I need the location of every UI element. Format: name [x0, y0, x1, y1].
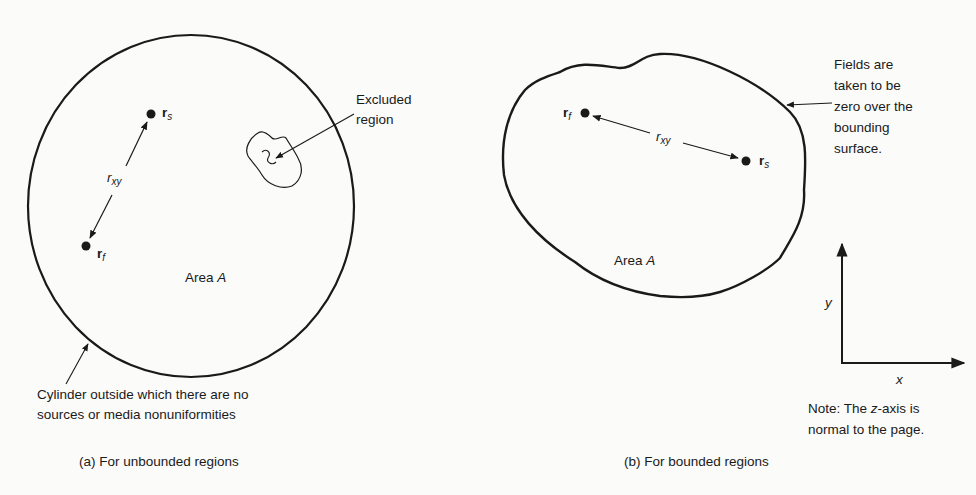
excluded-region-inner [262, 150, 276, 163]
label-cylinder: Cylinder outside which there are no sour… [37, 385, 249, 425]
label-axis-y: y [825, 293, 832, 313]
distance-arrow-right [683, 143, 738, 158]
label-excluded-region: Excluded region [356, 90, 412, 130]
excluded-pointer [276, 114, 354, 158]
label-r-xy: rxy [107, 168, 122, 192]
label-axis-x: x [896, 370, 903, 390]
field-point-b [581, 109, 590, 118]
source-point [147, 110, 156, 119]
label-fields-zero: Fields are taken to be zero over the bou… [834, 54, 913, 159]
label-r-s: rs [162, 103, 172, 127]
source-point-b [742, 157, 751, 166]
label-area-a: Area A [185, 268, 226, 288]
fields-pointer [787, 103, 832, 105]
label-r-f: rf [97, 244, 105, 268]
cylinder-pointer [66, 344, 88, 384]
excluded-region-shape [247, 132, 302, 187]
note-z-axis: Note: The z-axis is normal to the page. [808, 398, 924, 440]
caption-b: (b) For bounded regions [624, 452, 769, 472]
label-r-xy-b: rxy [656, 127, 671, 151]
cylinder-boundary [28, 35, 354, 377]
distance-arrow-left [593, 116, 650, 133]
distance-arrow-down [90, 195, 112, 238]
distance-arrow-up [126, 122, 147, 166]
field-point [82, 242, 91, 251]
label-r-s-b: rs [759, 151, 769, 175]
label-area-a-b: Area A [614, 251, 655, 271]
label-r-f-b: rf [563, 103, 571, 127]
caption-a: (a) For unbounded regions [79, 452, 239, 472]
